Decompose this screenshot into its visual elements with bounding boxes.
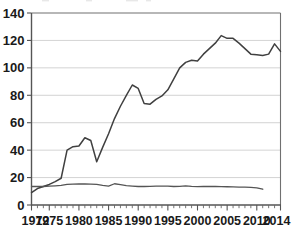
- y-tick-label-20: 20: [10, 170, 24, 185]
- x-tick-label-2005: 2005: [213, 214, 241, 228]
- y-tick-label-140: 140: [3, 6, 25, 21]
- x-tick-label-1995: 1995: [154, 214, 182, 228]
- x-axis-tick-labels: 1972197519801985199019952000200520102014: [22, 214, 291, 228]
- y-tick-label-120: 120: [3, 33, 25, 48]
- y-tick-label-0: 0: [17, 198, 24, 213]
- y-tick-label-40: 40: [10, 143, 24, 158]
- line-chart: 020406080100120140 197219751980198519901…: [0, 0, 295, 231]
- x-tick-label-1980: 1980: [65, 214, 93, 228]
- x-tick-label-2000: 2000: [184, 214, 212, 228]
- x-tick-label-1985: 1985: [95, 214, 123, 228]
- chart-container: 020406080100120140 197219751980198519901…: [0, 0, 295, 231]
- y-tick-label-80: 80: [10, 88, 24, 103]
- y-tick-label-100: 100: [3, 60, 25, 75]
- chart-background: [0, 0, 295, 231]
- x-tick-label-1990: 1990: [124, 214, 152, 228]
- x-tick-label-1975: 1975: [35, 214, 63, 228]
- x-tick-label-2014: 2014: [263, 214, 291, 228]
- y-tick-label-60: 60: [10, 115, 24, 130]
- x-axis-minor-ticks: [37, 205, 274, 208]
